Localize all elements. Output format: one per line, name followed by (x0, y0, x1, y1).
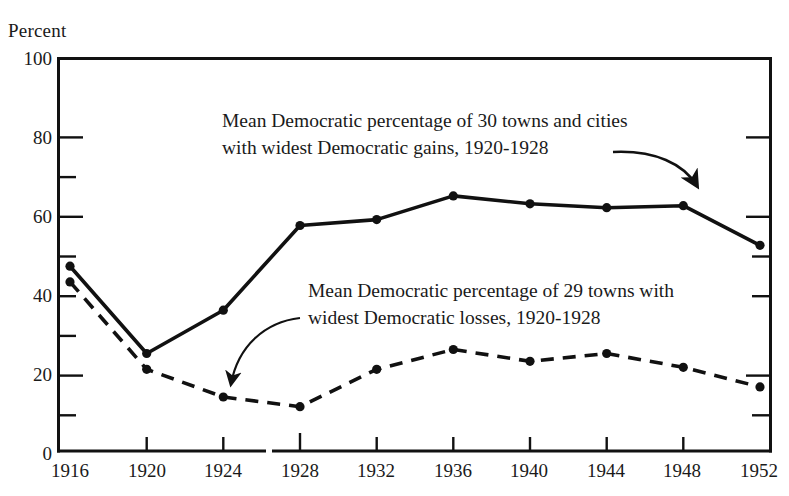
annotation-gains-arrow (613, 152, 697, 186)
axis-frame (57, 58, 772, 453)
chart-figure: Percent 100 80 60 40 20 0 1916 1920 1924… (0, 0, 789, 496)
y-axis-ticks-right (746, 137, 770, 415)
annotation-losses-arrow (231, 318, 300, 384)
x-axis-ticks (147, 433, 684, 451)
series-losses-line (70, 282, 760, 407)
series-losses-markers (65, 277, 764, 411)
series-gains-markers (65, 191, 764, 358)
plot-area (0, 0, 789, 496)
series-gains-line (70, 196, 760, 354)
